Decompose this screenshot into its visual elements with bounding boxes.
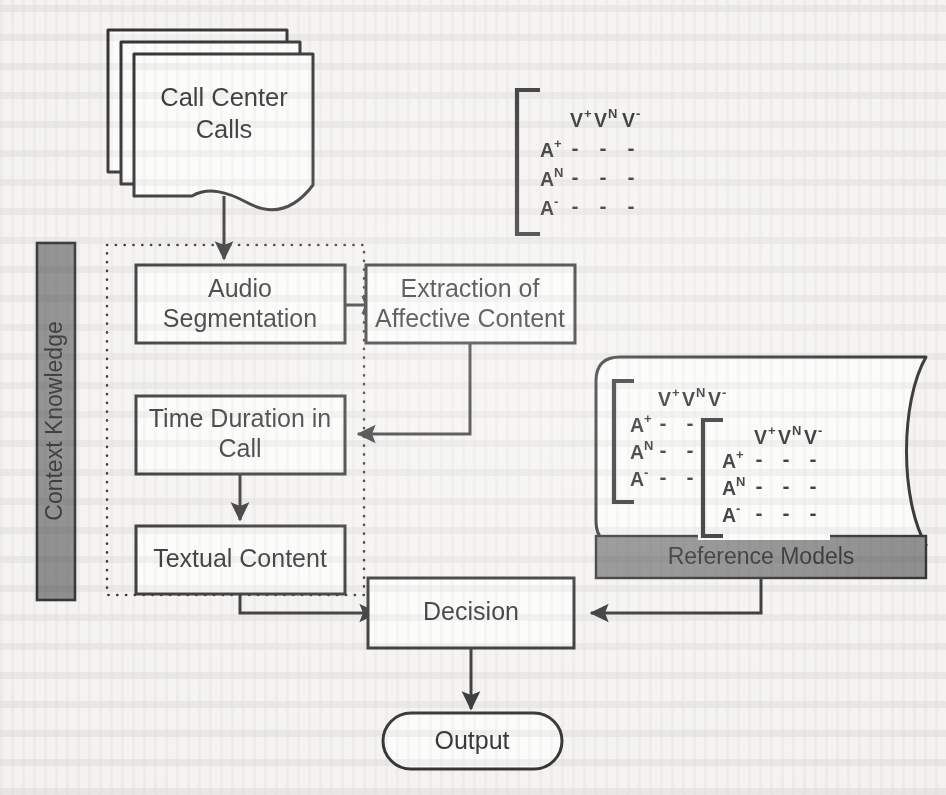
row-header-a-minus-sup: - bbox=[644, 465, 648, 480]
extraction-label-line1: Extraction of bbox=[401, 274, 540, 302]
row-header-a-neutral: A bbox=[722, 477, 736, 499]
input-matrix-row-headers: A + A N A - bbox=[540, 136, 563, 219]
reference-matrix-front-col-headers: V + V N V - bbox=[754, 423, 822, 448]
matrix-cell: - bbox=[783, 501, 790, 524]
row-header-a-minus-sup: - bbox=[554, 194, 558, 209]
row-header-a-plus-sup: + bbox=[736, 447, 744, 462]
edge-reference-to-decision bbox=[591, 578, 761, 613]
row-header-a-minus: A bbox=[540, 197, 554, 219]
col-header-v-minus-sup: - bbox=[636, 106, 640, 121]
matrix-cell: - bbox=[756, 501, 763, 524]
call-center-calls-label-line1: Call Center bbox=[160, 83, 288, 111]
extraction-label-line2: Affective Content bbox=[375, 304, 565, 332]
col-header-v-minus: V bbox=[804, 426, 817, 448]
input-matrix-cells: - - - - - - - - - bbox=[572, 136, 635, 217]
edge-extraction-to-time bbox=[358, 343, 470, 434]
col-header-v-neutral: V bbox=[778, 426, 791, 448]
extraction-node: Extraction of Affective Content bbox=[366, 265, 575, 343]
row-header-a-plus-sup: + bbox=[554, 136, 562, 151]
decision-label: Decision bbox=[423, 597, 519, 625]
row-header-a-plus-sup: + bbox=[644, 411, 652, 426]
matrix-cell: - bbox=[783, 447, 790, 470]
matrix-cell: - bbox=[600, 165, 607, 188]
time-duration-label-line1: Time Duration in bbox=[149, 404, 331, 432]
row-header-a-minus: A bbox=[722, 504, 736, 526]
col-header-v-minus-sup: - bbox=[818, 423, 822, 438]
row-header-a-neutral-sup: N bbox=[736, 474, 745, 489]
col-header-v-minus: V bbox=[622, 109, 635, 131]
col-header-v-plus: V bbox=[570, 109, 583, 131]
decision-node: Decision bbox=[368, 578, 574, 648]
row-header-a-neutral: A bbox=[540, 168, 554, 190]
row-header-a-neutral: A bbox=[630, 441, 644, 463]
matrix-cell: - bbox=[628, 194, 635, 217]
reference-matrix-back-col-headers: V + V N V - bbox=[658, 385, 726, 410]
row-header-a-neutral-sup: N bbox=[554, 165, 563, 180]
audio-segmentation-label-line1: Audio bbox=[208, 274, 272, 302]
call-center-calls-label-line2: Calls bbox=[196, 115, 253, 143]
call-center-calls-node: Call Center Calls bbox=[108, 30, 313, 210]
matrix-cell: - bbox=[756, 447, 763, 470]
matrix-cell: - bbox=[660, 438, 667, 461]
row-header-a-plus: A bbox=[630, 414, 644, 436]
matrix-cell: - bbox=[660, 465, 667, 488]
matrix-cell: - bbox=[756, 474, 763, 497]
audio-segmentation-node: Audio Segmentation bbox=[136, 265, 345, 343]
col-header-v-plus-sup: + bbox=[768, 423, 776, 438]
matrix-cell: - bbox=[687, 465, 694, 488]
textual-content-node: Textual Content bbox=[136, 526, 345, 594]
edge-textual-to-decision bbox=[240, 594, 377, 613]
matrix-cell: - bbox=[572, 165, 579, 188]
matrix-cell: - bbox=[600, 136, 607, 159]
col-header-v-neutral-sup: N bbox=[696, 385, 705, 400]
time-duration-label-line2: Call bbox=[218, 434, 261, 462]
col-header-v-plus: V bbox=[658, 388, 671, 410]
row-header-a-minus: A bbox=[630, 468, 644, 490]
col-header-v-neutral-sup: N bbox=[792, 423, 801, 438]
context-knowledge-node: Context Knowledge bbox=[37, 243, 75, 600]
col-header-v-neutral: V bbox=[682, 388, 695, 410]
reference-models-label: Reference Models bbox=[668, 543, 855, 569]
matrix-cell: - bbox=[687, 411, 694, 434]
audio-segmentation-label-line2: Segmentation bbox=[163, 304, 317, 332]
input-matrix-col-headers: V + V N V - bbox=[570, 106, 640, 131]
figure-canvas: Call Center Calls Context Knowledge Audi… bbox=[0, 0, 946, 795]
matrix-cell: - bbox=[600, 194, 607, 217]
col-header-v-plus-sup: + bbox=[584, 106, 592, 121]
input-matrix-bracket bbox=[517, 90, 540, 234]
matrix-cell: - bbox=[628, 165, 635, 188]
output-node: Output bbox=[383, 713, 562, 769]
textual-content-label: Textual Content bbox=[153, 544, 327, 572]
col-header-v-plus-sup: + bbox=[672, 385, 680, 400]
row-header-a-plus: A bbox=[722, 450, 736, 472]
reference-matrix-front: V + V N V - A + A N A - - - - - - - bbox=[698, 415, 830, 540]
input-matrix: V + V N V - A + A N A - - - - - bbox=[517, 90, 640, 234]
col-header-v-neutral-sup: N bbox=[608, 106, 617, 121]
output-label: Output bbox=[434, 726, 509, 754]
matrix-cell: - bbox=[687, 438, 694, 461]
matrix-cell: - bbox=[572, 136, 579, 159]
context-knowledge-label: Context Knowledge bbox=[41, 321, 67, 520]
col-header-v-neutral: V bbox=[594, 109, 607, 131]
matrix-cell: - bbox=[660, 411, 667, 434]
row-header-a-neutral-sup: N bbox=[644, 438, 653, 453]
time-duration-node: Time Duration in Call bbox=[136, 396, 345, 474]
matrix-cell: - bbox=[628, 136, 635, 159]
row-header-a-minus-sup: - bbox=[736, 501, 740, 516]
matrix-cell: - bbox=[810, 501, 817, 524]
row-header-a-plus: A bbox=[540, 139, 554, 161]
matrix-cell: - bbox=[810, 474, 817, 497]
matrix-cell: - bbox=[783, 474, 790, 497]
matrix-cell: - bbox=[572, 194, 579, 217]
col-header-v-minus-sup: - bbox=[722, 385, 726, 400]
col-header-v-minus: V bbox=[708, 388, 721, 410]
matrix-cell: - bbox=[810, 447, 817, 470]
col-header-v-plus: V bbox=[754, 426, 767, 448]
flowchart-diagram: Call Center Calls Context Knowledge Audi… bbox=[0, 0, 946, 795]
